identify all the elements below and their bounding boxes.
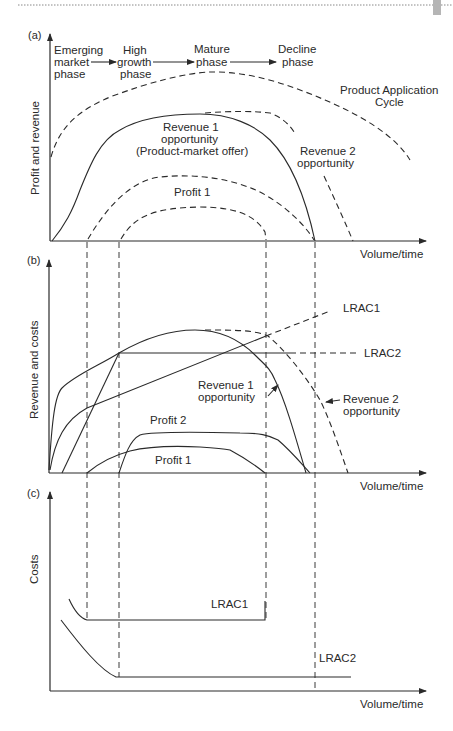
revenue1-label-l1: Revenue 1 [163,121,219,133]
panel-c-y-label: Costs [28,554,40,584]
pac-label-l2: Cycle [375,96,404,108]
pac-label-l1: Product Application [340,84,438,96]
phase-emerging-l3: phase [54,68,85,80]
panel-b-revenue2-label-l1: Revenue 2 [343,393,399,405]
revenue2-curve-tail [324,176,353,241]
profit1-label: Profit 1 [174,186,210,198]
panel-b-cost-curve-b [50,408,87,470]
revenue2-pointer-arrow [326,400,340,402]
phase-growth-l2: growth [117,56,152,68]
panel-c-lrac2-curve [61,620,351,677]
panel-a-y-label: Profit and revenue [29,101,41,195]
panel-b-steep-line [62,353,119,473]
panel-b-y-label: Revenue and costs [28,320,40,419]
revenue1-pointer-arrow [268,385,278,396]
profit2-label: Profit 2 [150,414,186,426]
lrac1-label: LRAC1 [343,302,380,314]
panel-c: (c) Costs Volume/time LRAC1 LRAC2 [27,487,426,710]
phase-decline-l1: Decline [278,43,316,55]
panel-b-label: (b) [27,254,40,266]
profit1-label-b: Profit 1 [155,454,191,466]
phase-mature-l1: Mature [194,43,230,55]
revenue1-label-l2: opportunity [161,133,218,145]
panel-b-cost-curve-a [49,353,119,470]
phase-growth-l3: phase [120,68,151,80]
phase-mature-l2: phase [196,56,227,68]
revenue2-label-l1: Revenue 2 [300,145,356,157]
phase-emerging-l1: Emerging [54,44,103,56]
lrac2-label: LRAC2 [364,347,401,359]
revenue2-label-l2: opportunity [297,157,354,169]
panel-c-lrac1-label: LRAC1 [211,598,248,610]
profit2-curve [119,432,310,473]
panel-a-x-label: Volume/time [360,248,423,260]
profit-inner-curve [121,207,266,240]
panel-c-lrac2-label: LRAC2 [319,652,356,664]
page-tab-marker [433,0,441,15]
panel-b-revenue2-label-l2: opportunity [343,405,400,417]
panel-c-label: (c) [27,487,40,499]
lrac1-line-dashed [266,311,330,336]
panel-a: (a) Profit and revenue Volume/time Emerg… [28,29,438,260]
panel-b-x-label: Volume/time [360,480,423,492]
product-lifecycle-diagram: (a) Profit and revenue Volume/time Emerg… [0,0,453,731]
revenue1-label-l3: (Product-market offer) [136,145,248,157]
phase-decline-l2: phase [282,56,313,68]
panel-b-revenue1-label-l2: opportunity [198,391,255,403]
panel-a-label: (a) [28,29,41,41]
panel-b-revenue1-label-l1: Revenue 1 [198,379,254,391]
panel-c-x-label: Volume/time [360,698,423,710]
phase-growth-l1: High [123,44,147,56]
phase-emerging-l2: market [54,56,90,68]
